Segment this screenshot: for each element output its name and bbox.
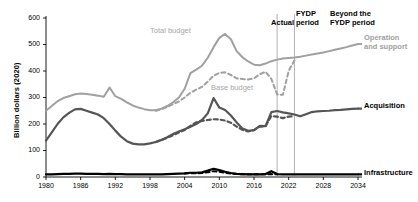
beyond-fydp-period-label-line: FYDP period: [330, 18, 375, 27]
beyond-fydp-period-label: Beyond theFYDP period: [330, 9, 392, 27]
x-tick-label: 2016: [243, 182, 265, 189]
x-tick-label: 2034: [347, 182, 369, 189]
fydp-period-label-line: period: [296, 18, 319, 27]
y-tick-label: 400: [0, 67, 40, 74]
y-tick-label: 300: [0, 93, 40, 100]
actual-period-label: Actual: [260, 18, 294, 27]
series-line-acquisition-base: [156, 116, 295, 142]
x-tick-label: 1980: [35, 182, 57, 189]
y-tick-label: 600: [0, 14, 40, 21]
fydp-period-label-line: FYDP: [296, 9, 316, 18]
x-tick-label: 2022: [278, 182, 300, 189]
x-tick-label: 2028: [312, 182, 334, 189]
x-tick-label: 1986: [70, 182, 92, 189]
beyond-fydp-period-label-line: Beyond the: [330, 9, 371, 18]
fydp-period-label: FYDPperiod: [296, 9, 326, 27]
x-tick-label: 1992: [104, 182, 126, 189]
x-tick-label: 2004: [174, 182, 196, 189]
x-tick-label: 1998: [139, 182, 161, 189]
total-budget-annotation: Total budget: [150, 26, 191, 35]
chart-plot-area: [0, 0, 418, 202]
base-budget-annotation: Base budget: [211, 83, 253, 92]
y-tick-label: 200: [0, 120, 40, 127]
acquisition-series-label: Acquisition: [364, 101, 405, 110]
series-line-operation-and-support: [46, 34, 358, 111]
operation-support-series-label: Operationand support: [364, 33, 407, 51]
y-tick-label: 500: [0, 40, 40, 47]
operation-support-series-label-line: Operation: [364, 33, 399, 42]
y-tick-label: 0: [0, 173, 40, 180]
infrastructure-series-label: Infrastructure: [364, 168, 413, 177]
operation-support-series-label-line: and support: [364, 42, 407, 51]
x-tick-label: 2010: [208, 182, 230, 189]
y-tick-label: 100: [0, 146, 40, 153]
chart-figure: Billion dollars (2020) 01002003004005006…: [0, 0, 418, 202]
